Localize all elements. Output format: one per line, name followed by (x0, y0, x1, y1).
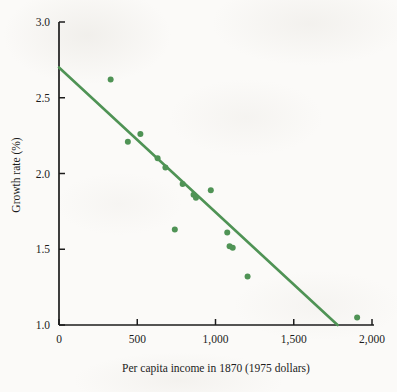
data-point (224, 230, 230, 236)
data-point (245, 274, 251, 280)
data-point (180, 181, 186, 187)
figure-background: 1.01.52.02.53.0 05001,0001,5002,000 Per … (0, 0, 397, 392)
data-points (108, 77, 360, 321)
data-point (108, 77, 114, 83)
data-point (162, 164, 168, 170)
data-point (155, 155, 161, 161)
y-tick-label: 2.5 (36, 92, 51, 104)
data-point (354, 314, 360, 320)
x-axis-tick-labels: 05001,0001,5002,000 (56, 333, 385, 346)
data-point (230, 245, 236, 251)
x-tick-label: 500 (129, 333, 147, 345)
data-point (172, 227, 178, 233)
y-axis-title: Growth rate (%) (10, 137, 23, 213)
y-axis-tick-labels: 1.01.52.02.53.0 (36, 16, 51, 331)
x-axis-ticks (59, 319, 372, 325)
y-tick-label: 1.5 (36, 243, 51, 255)
y-tick-label: 3.0 (36, 16, 51, 28)
x-tick-label: 1,500 (281, 333, 307, 346)
data-point (193, 195, 199, 201)
y-tick-label: 2.0 (36, 168, 51, 180)
data-point (137, 131, 143, 137)
scatter-plot: 1.01.52.02.53.0 05001,0001,5002,000 Per … (0, 0, 397, 392)
x-tick-label: 2,000 (359, 333, 385, 346)
y-tick-label: 1.0 (36, 319, 51, 331)
x-tick-label: 1,000 (203, 333, 229, 346)
data-point (125, 139, 131, 145)
x-axis-title: Per capita income in 1870 (1975 dollars) (122, 362, 310, 375)
axes-group (59, 22, 374, 325)
data-point (208, 187, 214, 193)
x-tick-label: 0 (56, 333, 62, 345)
